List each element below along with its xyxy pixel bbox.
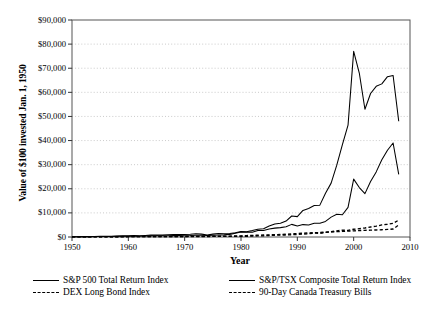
y-tick-label: $90,000 xyxy=(14,16,66,25)
y-tick-label: $60,000 xyxy=(14,88,66,97)
legend-entry: 90-Day Canada Treasury Bills xyxy=(229,288,371,297)
legend-swatch-dashed-line-icon xyxy=(229,289,255,296)
x-tick-label: 2010 xyxy=(387,243,433,252)
series-line-0 xyxy=(72,51,399,236)
x-tick-label: 2000 xyxy=(331,243,377,252)
legend-swatch-dashed-line-icon xyxy=(33,289,59,296)
legend-label: DEX Long Bond Index xyxy=(63,288,150,297)
y-tick-label: $10,000 xyxy=(14,208,66,217)
legend-entry: S&P/TSX Composite Total Return Index xyxy=(229,276,411,285)
y-tick-label: $20,000 xyxy=(14,184,66,193)
series-line-1 xyxy=(72,143,399,237)
x-tick-label: 1970 xyxy=(162,243,208,252)
y-tick-label: $0 xyxy=(14,233,66,242)
series-line-2 xyxy=(72,220,399,237)
legend-entry: S&P 500 Total Return Index xyxy=(33,276,168,285)
chart-legend: S&P 500 Total Return IndexS&P/TSX Compos… xyxy=(33,276,433,306)
x-axis-title: Year xyxy=(70,255,410,266)
legend-entry: DEX Long Bond Index xyxy=(33,288,150,297)
legend-label: S&P 500 Total Return Index xyxy=(63,276,168,285)
chart-container: Value of $100 invested Jan. 1, 1950 $90,… xyxy=(0,0,435,315)
legend-swatch-solid-line-icon xyxy=(33,277,59,284)
y-tick-label: $50,000 xyxy=(14,112,66,121)
legend-swatch-solid-line-icon xyxy=(229,277,255,284)
legend-label: S&P/TSX Composite Total Return Index xyxy=(259,276,411,285)
legend-label: 90-Day Canada Treasury Bills xyxy=(259,288,371,297)
x-tick-label: 1990 xyxy=(274,243,320,252)
y-tick-label: $70,000 xyxy=(14,64,66,73)
y-tick-label: $30,000 xyxy=(14,160,66,169)
y-tick-label: $80,000 xyxy=(14,40,66,49)
x-tick-label: 1950 xyxy=(49,243,95,252)
x-tick-label: 1960 xyxy=(105,243,151,252)
y-tick-label: $40,000 xyxy=(14,136,66,145)
series-line-3 xyxy=(72,225,399,237)
plot-frame xyxy=(72,20,410,237)
x-tick-label: 1980 xyxy=(218,243,264,252)
